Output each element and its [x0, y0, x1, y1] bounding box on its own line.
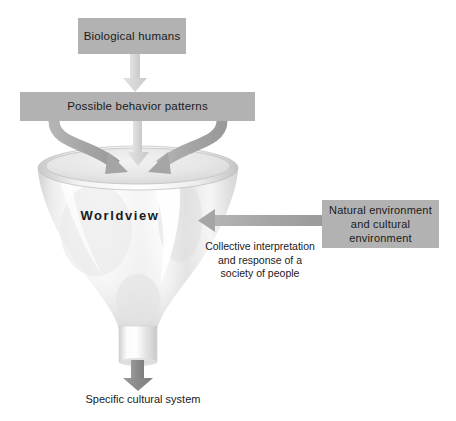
box-possible-behavior-patterns[interactable]: Possible behavior patterns	[20, 92, 255, 121]
box-natural-and-cultural-environment[interactable]: Natural environment and cultural environ…	[322, 200, 439, 248]
collective-line-1: Collective interpretation	[196, 240, 324, 254]
arrow-biological-to-behavior	[123, 54, 147, 92]
collective-line-2: and response of a	[196, 254, 324, 268]
diagram-canvas: Biological humans Possible behavior patt…	[0, 0, 456, 421]
label-worldview: Worldview	[60, 208, 180, 225]
label-collective-interpretation: Collective interpretation and response o…	[196, 240, 324, 281]
collective-line-3: society of people	[196, 267, 324, 281]
label-specific-cultural-system: Specific cultural system	[58, 392, 228, 406]
environment-line-2: and	[351, 218, 370, 230]
box-biological-humans[interactable]: Biological humans	[78, 18, 186, 54]
environment-line-1: Natural environment	[329, 204, 432, 216]
